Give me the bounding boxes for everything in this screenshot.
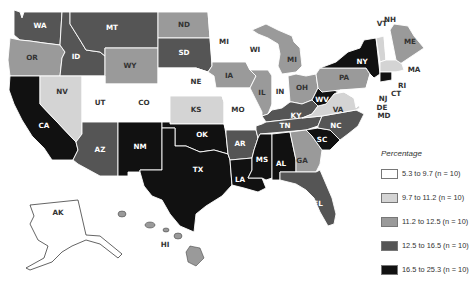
- state-ri: [392, 72, 398, 80]
- state-label-mt: MT: [106, 23, 118, 32]
- state-label-wy: WY: [123, 61, 137, 70]
- legend-label: 16.5 to 25.3 (n = 10): [402, 265, 469, 274]
- legend-swatch: [381, 169, 398, 179]
- legend-swatch: [381, 265, 398, 275]
- state-ak: [26, 200, 122, 270]
- state-label-mi: MI: [287, 55, 297, 64]
- legend-label: 9.7 to 11.2 (n = 10): [402, 193, 464, 202]
- state-label-nm: NM: [133, 142, 146, 151]
- state-label-pa: PA: [339, 73, 350, 82]
- map-legend: Percentage 5.3 to 9.7 (n = 10) 9.7 to 11…: [381, 149, 473, 283]
- state-label-me: ME: [404, 37, 416, 46]
- legend-swatch: [381, 193, 398, 203]
- state-label-in: IN: [276, 87, 285, 96]
- legend-label: 5.3 to 9.7 (n = 10): [402, 169, 461, 178]
- state-label-ky: KY: [291, 111, 303, 120]
- state-label-az: AZ: [95, 145, 106, 154]
- state-label-ma: MA: [408, 65, 421, 74]
- state-label-ca: CA: [39, 121, 50, 130]
- state-label-nc: NC: [330, 121, 341, 130]
- state-label-ak: AK: [52, 208, 64, 217]
- legend-swatch: [381, 241, 398, 251]
- state-label-tn: TN: [280, 121, 291, 130]
- state-label-va: VA: [333, 105, 344, 114]
- state-label-ks: KS: [191, 105, 202, 114]
- state-label-co: CO: [138, 98, 149, 107]
- state-label-fl: FL: [313, 199, 323, 208]
- state-label-ne: NE: [191, 77, 202, 86]
- state-label-sc: SC: [317, 135, 327, 144]
- state-label-ia: IA: [225, 71, 234, 80]
- state-label-wi: WI: [250, 45, 261, 54]
- state-label-sd: SD: [178, 48, 189, 57]
- state-label-al: AL: [276, 159, 287, 168]
- state-label-la: LA: [235, 175, 246, 184]
- state-label-ut: UT: [95, 98, 106, 107]
- state-label-ny: NY: [356, 57, 368, 66]
- legend-title: Percentage: [381, 149, 473, 158]
- state-label-ga: GA: [296, 156, 308, 165]
- state-label-mo: MO: [231, 105, 244, 114]
- state-label-oh: OH: [296, 83, 308, 92]
- state-label-ct: CT: [391, 89, 401, 98]
- state-fl: [280, 170, 336, 226]
- state-label-ok: OK: [196, 130, 208, 139]
- state-label-ms: MS: [256, 155, 268, 164]
- state-label-nh: NH: [384, 15, 396, 24]
- legend-item: 5.3 to 9.7 (n = 10): [381, 168, 473, 179]
- state-label-wv: WV: [315, 95, 329, 104]
- legend-item: 11.2 to 12.5 (n = 10): [381, 216, 473, 227]
- state-label-wa: WA: [33, 21, 47, 30]
- state-label-il: IL: [258, 88, 266, 97]
- state-label-tx: TX: [193, 165, 204, 174]
- state-label-hi: HI: [161, 240, 170, 249]
- legend-item: 12.5 to 16.5 (n = 10): [381, 240, 473, 251]
- legend-label: 12.5 to 16.5 (n = 10): [402, 241, 469, 250]
- legend-item: 16.5 to 25.3 (n = 10): [381, 264, 473, 275]
- state-label-or: OR: [26, 53, 38, 62]
- state-label-id: ID: [72, 52, 81, 61]
- state-label-nj: NJ: [379, 94, 388, 103]
- state-label-nv: NV: [56, 87, 68, 96]
- state-ct: [380, 72, 392, 82]
- state-label-nd: ND: [178, 20, 190, 29]
- legend-item: 9.7 to 11.2 (n = 10): [381, 192, 473, 203]
- state-label-md: MD: [377, 111, 390, 120]
- legend-label: 11.2 to 12.5 (n = 10): [402, 217, 468, 226]
- state-label-ar: AR: [234, 139, 246, 148]
- legend-swatch: [381, 217, 398, 227]
- state-label-mn: MI: [219, 37, 229, 46]
